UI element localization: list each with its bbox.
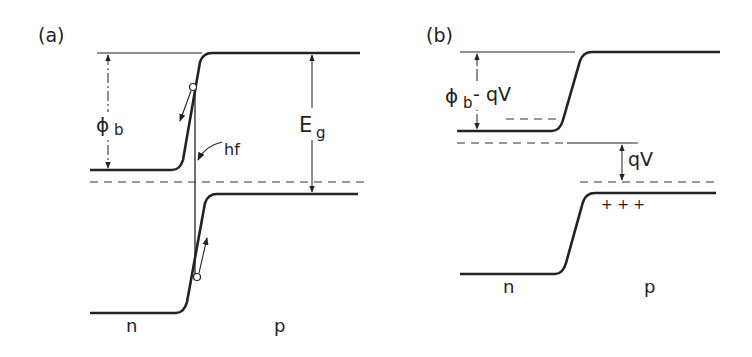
positive-charges: + + +: [601, 196, 645, 212]
n-region-label: n: [503, 276, 514, 297]
p-region-label: p: [274, 315, 285, 336]
qv-label: qV: [628, 148, 653, 170]
electron-circle: [190, 84, 197, 91]
panel-a-label: (a): [38, 24, 64, 46]
valence-band: [90, 194, 358, 313]
phi-b-subscript: b: [463, 94, 473, 112]
phi-b-symbol: ϕ: [96, 113, 109, 137]
band-diagram-svg: (a) ϕ b hf E g n p (b): [0, 0, 752, 357]
valence-band: [460, 193, 716, 274]
p-region-label: p: [644, 276, 655, 297]
hf-label: hf: [224, 140, 240, 159]
phi-b-symbol: ϕ: [445, 84, 458, 108]
hole-arrow: [199, 238, 207, 273]
eg-symbol: E: [299, 113, 312, 137]
eg-subscript: g: [316, 124, 326, 142]
hf-pointer-arrow: [198, 142, 222, 160]
panel-b-label: (b): [426, 24, 453, 46]
minus-qv-label: - qV: [473, 83, 511, 105]
energy-band-diagram: (a) ϕ b hf E g n p (b): [0, 0, 752, 357]
panel-a: (a) ϕ b hf E g n p: [38, 24, 364, 336]
panel-b: (b) ϕ b - qV qV + + + n p: [426, 24, 720, 297]
phi-b-subscript: b: [114, 121, 124, 139]
n-region-label: n: [126, 315, 137, 336]
hole-circle: [194, 274, 201, 281]
